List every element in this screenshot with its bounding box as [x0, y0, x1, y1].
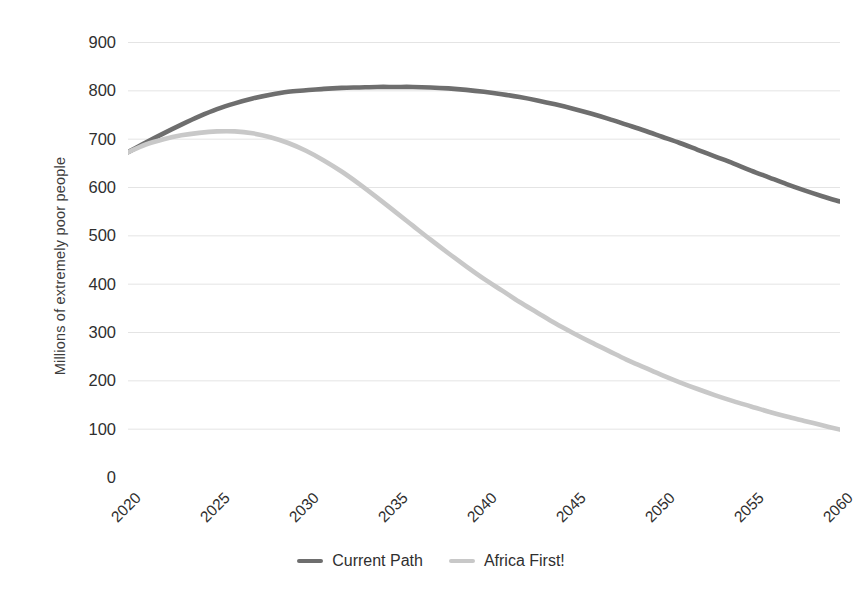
x-tick-label: 2060 — [813, 489, 857, 533]
x-axis-tick-labels: 202020252030203520402045205020552060 — [0, 0, 862, 605]
x-tick-label: 2055 — [724, 489, 768, 533]
legend-swatch-icon — [449, 559, 475, 563]
x-tick-label: 2030 — [279, 489, 323, 533]
legend-item[interactable]: Africa First! — [449, 552, 565, 570]
x-tick-label: 2045 — [546, 489, 590, 533]
chart-legend: Current PathAfrica First! — [0, 552, 862, 570]
x-tick-label: 2050 — [635, 489, 679, 533]
line-chart: Millions of extremely poor people 010020… — [0, 0, 862, 605]
x-tick-label: 2025 — [190, 489, 234, 533]
legend-item[interactable]: Current Path — [297, 552, 423, 570]
legend-label: Africa First! — [484, 552, 565, 570]
x-tick-label: 2040 — [457, 489, 501, 533]
legend-swatch-icon — [297, 559, 323, 563]
x-tick-label: 2035 — [368, 489, 412, 533]
x-tick-label: 2020 — [101, 489, 145, 533]
legend-label: Current Path — [332, 552, 423, 570]
